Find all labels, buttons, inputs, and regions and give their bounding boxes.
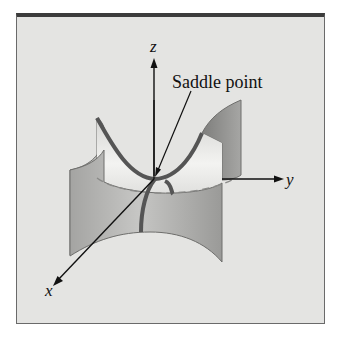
y-axis-label: y: [284, 170, 294, 189]
saddle-diagram: z y x Saddle point: [0, 0, 340, 345]
saddle-point-label: Saddle point: [172, 72, 263, 92]
figure-canvas: z y x Saddle point: [0, 0, 340, 345]
x-axis-label: x: [44, 281, 53, 300]
surface-inner-trough: [97, 118, 222, 194]
z-axis-label: z: [149, 37, 157, 56]
